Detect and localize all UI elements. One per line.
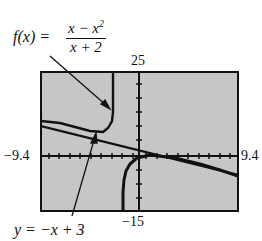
graph-canvas xyxy=(0,0,262,241)
